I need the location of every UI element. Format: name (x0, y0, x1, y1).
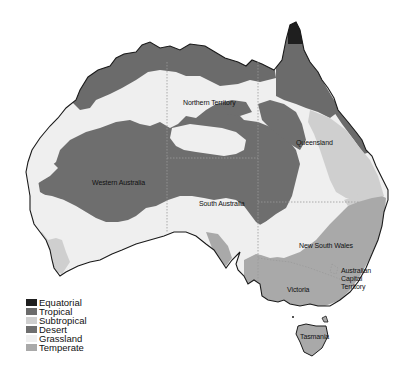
legend-swatch (26, 326, 37, 333)
legend-swatch (26, 317, 37, 324)
legend-swatch (26, 299, 37, 306)
label-tasmania: Tasmania (300, 333, 329, 341)
label-victoria: Victoria (287, 286, 309, 294)
label-western-australia: Western Australia (92, 179, 145, 187)
label-new-south-wales: New South Wales (299, 242, 353, 250)
label-act-line1: Australian (341, 267, 371, 275)
label-act-line3: Territory (341, 283, 371, 291)
label-queensland: Queensland (296, 139, 333, 147)
label-act: Australian Capital Territory (341, 267, 371, 291)
legend-swatch (26, 344, 37, 351)
legend-item-temperate: Temperate (26, 343, 87, 352)
label-act-line2: Capital (341, 275, 371, 283)
label-south-australia: South Australia (199, 200, 245, 208)
legend-swatch (26, 335, 37, 342)
label-northern-territory: Northern Territory (183, 99, 236, 107)
legend-swatch (26, 308, 37, 315)
legend: Equatorial Tropical Subtropical Desert G… (26, 298, 87, 352)
